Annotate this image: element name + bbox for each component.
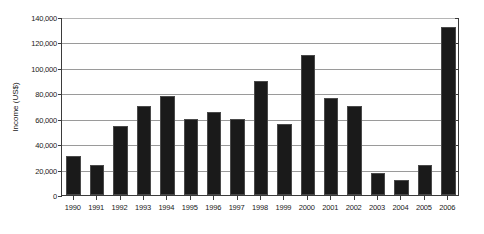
x-axis-tick-mark [400, 196, 401, 200]
x-axis-tick-label: 2002 [346, 203, 362, 212]
x-axis-tick-label: 2003 [369, 203, 385, 212]
bar [254, 81, 269, 195]
y-axis-tick-labels: 140,000120,000100,00080,00060,00040,0002… [16, 0, 57, 234]
x-axis-tick-mark [120, 196, 121, 200]
x-axis-tick-mark [260, 196, 261, 200]
bar [394, 180, 409, 195]
x-axis-tick-label: 1996 [205, 203, 221, 212]
x-axis-tick-mark [190, 196, 191, 200]
x-axis-tick-mark [143, 196, 144, 200]
x-axis-tick-label: 2004 [393, 203, 409, 212]
x-axis-tick-mark [377, 196, 378, 200]
x-axis-tick-label: 1999 [275, 203, 291, 212]
x-axis-tick-label: 2006 [439, 203, 455, 212]
bar [371, 173, 386, 195]
x-axis-tick-mark [96, 196, 97, 200]
bar [418, 165, 433, 196]
x-axis-tick-label: 1998 [252, 203, 268, 212]
y-axis-tick-label: 100,000 [31, 64, 57, 73]
y-axis-tick-label: 120,000 [31, 39, 57, 48]
x-axis-tick-label: 2001 [322, 203, 338, 212]
x-axis-tick-label: 1993 [135, 203, 151, 212]
bar [113, 126, 128, 195]
x-axis-tick-mark [73, 196, 74, 200]
bar [277, 124, 292, 195]
x-axis-tick-label: 1997 [229, 203, 245, 212]
bar [207, 112, 222, 195]
x-axis-tick-mark [283, 196, 284, 200]
x-axis-tick-mark [447, 196, 448, 200]
x-axis-tick-label: 1994 [158, 203, 174, 212]
bar [90, 165, 105, 196]
bar [160, 96, 175, 195]
x-axis-tick-label: 1995 [182, 203, 198, 212]
y-axis-tick-label: 80,000 [35, 90, 57, 99]
bar [441, 27, 456, 195]
x-axis-tick-mark [424, 196, 425, 200]
bar-series [62, 18, 458, 195]
bar [230, 119, 245, 195]
bar [184, 119, 199, 195]
x-axis-tick-label: 2005 [416, 203, 432, 212]
y-axis-tick-label: 0 [53, 192, 57, 201]
bar [301, 55, 316, 195]
y-axis-tick-label: 40,000 [35, 141, 57, 150]
x-axis-tick-label: 1991 [88, 203, 104, 212]
income-bar-chart: Income (US$) 140,000120,000100,00080,000… [0, 0, 484, 234]
y-axis-tick-label: 20,000 [35, 166, 57, 175]
x-axis-tick-labels: 1990199119921993199419951996199719981999… [61, 203, 459, 219]
x-axis-tick-mark [213, 196, 214, 200]
x-axis-tick-mark [354, 196, 355, 200]
x-axis-tick-label: 2000 [299, 203, 315, 212]
x-axis-tick-mark [307, 196, 308, 200]
y-axis-tick-label: 140,000 [31, 14, 57, 23]
x-axis-tick-label: 1990 [65, 203, 81, 212]
bar [347, 106, 362, 195]
bar [66, 156, 81, 195]
x-axis-tick-mark [237, 196, 238, 200]
x-axis-tick-mark [330, 196, 331, 200]
x-axis-tick-label: 1992 [112, 203, 128, 212]
bar [324, 98, 339, 195]
plot-area [61, 18, 459, 196]
x-axis-tick-mark [166, 196, 167, 200]
bar [137, 106, 152, 195]
x-axis-tick-marks [61, 196, 459, 202]
y-axis-tick-label: 60,000 [35, 115, 57, 124]
